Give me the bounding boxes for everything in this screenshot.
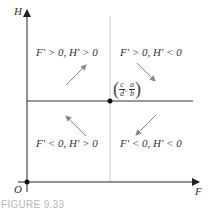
- equilibrium-label: (cd, ab): [113, 79, 141, 100]
- origin-point: [25, 180, 30, 185]
- quadrant-label-bottom-left: F' < 0, H' > 0: [36, 137, 98, 149]
- arrow-bottom-right-icon: [136, 115, 156, 135]
- figure-caption: FIGURE 9.33: [1, 199, 64, 210]
- quadrant-label-bottom-right: F' < 0, H' < 0: [120, 137, 182, 149]
- y-axis-label: H: [14, 5, 22, 17]
- x-axis-label: F: [195, 185, 202, 197]
- arrow-top-left-icon: [66, 65, 86, 85]
- origin-label: O: [14, 183, 22, 195]
- phase-diagram: [0, 0, 210, 214]
- equilibrium-point: [108, 99, 113, 104]
- quadrant-label-top-left: F' > 0, H' > 0: [36, 46, 98, 58]
- quadrant-label-top-right: F' > 0, H' < 0: [120, 46, 182, 58]
- arrow-bottom-left-icon: [66, 116, 86, 136]
